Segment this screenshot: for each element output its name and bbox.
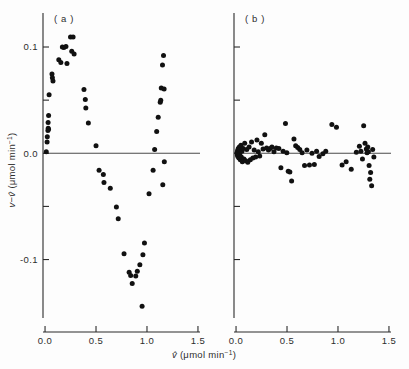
data-point [367, 163, 372, 168]
panel-b-label: ( b ) [245, 13, 265, 24]
data-point [329, 122, 334, 127]
data-point [276, 146, 281, 151]
x-tick-label: 1.5 [191, 335, 205, 346]
data-point [46, 127, 51, 132]
data-point [291, 136, 296, 141]
data-point [135, 269, 140, 274]
data-point [314, 149, 319, 154]
data-point [307, 162, 312, 167]
y-tick-label: 0.1 [24, 41, 38, 52]
panel-b-x-ticks: 0.00.51.01.5 [229, 326, 396, 346]
data-point [283, 121, 288, 126]
data-point [158, 98, 163, 103]
data-point [269, 144, 274, 149]
data-point [349, 167, 354, 172]
data-point [160, 182, 165, 187]
data-point [242, 141, 247, 146]
data-point [344, 159, 349, 164]
data-point [334, 125, 339, 130]
data-point [151, 168, 156, 173]
data-point [46, 113, 51, 118]
data-point [140, 252, 145, 257]
residual-plot-figure: 0.10.0-0.1 0.00.51.01.5 ( a ) 0.00.51.01… [0, 0, 409, 369]
y-tick-label: -0.1 [20, 254, 38, 265]
data-point [247, 144, 252, 149]
data-point [312, 162, 317, 167]
x-axis-title-group: v̂ (μmol min−1) [172, 349, 236, 360]
data-point [44, 149, 49, 154]
data-point [287, 169, 292, 174]
x-title-exp: −1 [225, 349, 233, 356]
data-point [128, 273, 133, 278]
data-point [83, 106, 88, 111]
panel-a: 0.10.0-0.1 0.00.51.01.5 ( a ) [20, 13, 205, 346]
data-point [81, 87, 86, 92]
data-point [366, 149, 371, 154]
figure-container: 0.10.0-0.1 0.00.51.01.5 ( a ) 0.00.51.01… [0, 0, 409, 369]
data-point [323, 149, 328, 154]
data-point [50, 79, 55, 84]
data-point [108, 186, 113, 191]
data-point [133, 274, 138, 279]
x-tick-label: 0.5 [280, 335, 294, 346]
data-point [142, 241, 147, 246]
data-point [162, 159, 167, 164]
data-point [71, 34, 76, 39]
data-point [64, 61, 69, 66]
data-point [340, 162, 345, 167]
data-point [140, 304, 145, 309]
data-point [58, 60, 63, 65]
data-point [369, 183, 374, 188]
data-point [130, 281, 135, 286]
data-point [137, 262, 142, 267]
data-point [259, 141, 264, 146]
x-tick-label: 0.0 [38, 335, 52, 346]
data-point [154, 129, 159, 134]
y-title-close: ) [6, 132, 17, 135]
x-tick-label: 1.5 [382, 335, 396, 346]
panel-b: 0.00.51.01.5 ( b ) [229, 13, 396, 346]
data-point [361, 123, 366, 128]
data-point [254, 137, 259, 142]
data-point [101, 172, 106, 177]
y-tick-label: 0.0 [24, 148, 38, 159]
data-point [309, 151, 314, 156]
data-point [302, 163, 307, 168]
data-point [370, 147, 375, 152]
data-point [45, 134, 50, 139]
data-point [304, 148, 309, 153]
data-point [122, 251, 127, 256]
data-point [147, 191, 152, 196]
x-tick-label: 0.5 [89, 335, 103, 346]
panel-a-points [44, 34, 167, 308]
data-point [371, 154, 376, 159]
data-point [256, 149, 261, 154]
data-point [360, 157, 365, 162]
panel-a-label: ( a ) [54, 13, 74, 24]
x-axis-title: v̂ (μmol min−1) [172, 349, 236, 360]
data-point [47, 92, 52, 97]
data-point [97, 168, 102, 173]
data-point [116, 216, 121, 221]
data-point [114, 204, 119, 209]
data-point [162, 86, 167, 91]
y-title-units: (μmol min [6, 144, 17, 192]
y-title-exp: −1 [6, 136, 13, 144]
x-tick-label: 1.0 [331, 335, 345, 346]
x-title-close: ) [233, 349, 236, 360]
data-point [358, 149, 363, 154]
data-point [368, 170, 373, 175]
data-point [367, 177, 372, 182]
data-point [365, 144, 370, 149]
data-point [357, 144, 362, 149]
data-point [262, 132, 267, 137]
data-point [94, 143, 99, 148]
y-axis-title: v−v̂ (μmol min−1) [6, 132, 17, 207]
data-point [284, 150, 289, 155]
panel-b-points [235, 121, 377, 188]
x-tick-label: 1.0 [140, 335, 154, 346]
data-point [156, 115, 161, 120]
data-point [63, 44, 68, 49]
data-point [160, 63, 165, 68]
data-point [257, 153, 262, 158]
